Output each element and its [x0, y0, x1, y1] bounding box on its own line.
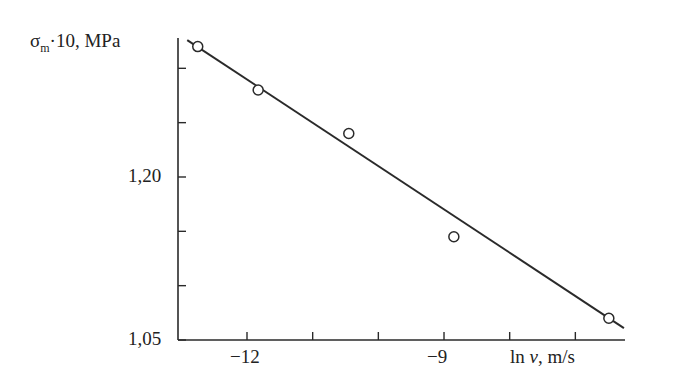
y-axis-label-subscript: m	[40, 41, 49, 55]
axes	[178, 38, 625, 340]
y-axis-label: σm·10, MPa	[30, 30, 120, 56]
chart-plot-area	[0, 0, 673, 389]
fit-line	[187, 40, 624, 328]
x-axis-label-unit: , m/s	[538, 346, 575, 367]
x-axis-label-var: v	[530, 346, 538, 367]
data-point-marker	[193, 42, 203, 52]
regression-line	[187, 40, 624, 328]
x-axis-label: ln v, m/s	[510, 346, 575, 368]
x-tick-label: −9	[427, 346, 447, 368]
data-point-marker	[449, 232, 459, 242]
x-tick-label: −12	[230, 346, 260, 368]
data-point-marker	[253, 85, 263, 95]
data-point-marker	[344, 129, 354, 139]
y-axis-label-unit: ·10, MPa	[50, 30, 121, 51]
y-axis-label-symbol: σ	[30, 30, 40, 51]
y-tick-label: 1,05	[128, 328, 161, 350]
data-point-marker	[604, 313, 614, 323]
y-tick-label: 1,20	[128, 165, 161, 187]
x-axis-label-fn: ln	[510, 346, 530, 367]
